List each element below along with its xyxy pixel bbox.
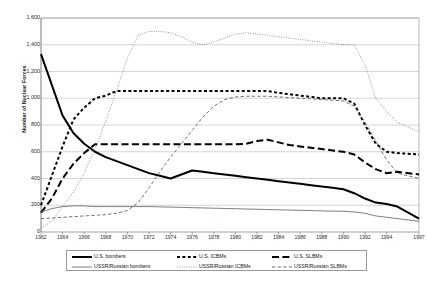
- legend-label-4: USSR/Russian ICBMs: [199, 264, 251, 269]
- series-line-3: [41, 206, 419, 221]
- legend-label-3: USSR/Russian bombers: [94, 264, 150, 269]
- series-line-1: [41, 91, 419, 205]
- legend-swatch-dotted-thick-icon: [177, 253, 197, 261]
- legend-label-5: USSR/Russian SLBMs: [294, 264, 347, 269]
- legend-item-3[interactable]: USSR/Russian bombers: [72, 262, 150, 272]
- legend-swatch-solid-thin-icon: [72, 263, 92, 271]
- legend-item-4[interactable]: USSR/Russian ICBMs: [177, 262, 251, 272]
- series-line-5: [41, 96, 419, 218]
- legend-item-2[interactable]: U.S. SLBMs: [272, 252, 322, 262]
- series-line-4: [41, 31, 419, 228]
- legend-item-1[interactable]: U.S. ICBMs: [177, 252, 226, 262]
- legend-swatch-dotted-thin-icon: [177, 263, 197, 271]
- series-line-0: [41, 54, 419, 219]
- chart-legend: U.S. bombers U.S. ICBMs U.S. SLBMs USSR/…: [66, 250, 367, 271]
- legend-label-2: U.S. SLBMs: [294, 254, 322, 259]
- legend-swatch-solid-thick-icon: [72, 253, 92, 261]
- legend-row-ussr: USSR/Russian bombers USSR/Russian ICBMs …: [67, 262, 366, 272]
- legend-swatch-dashed-long-thick-icon: [272, 253, 292, 261]
- legend-item-0[interactable]: U.S. bombers: [72, 252, 126, 262]
- legend-item-5[interactable]: USSR/Russian SLBMs: [272, 262, 347, 272]
- legend-label-1: U.S. ICBMs: [199, 254, 226, 259]
- plot-area: [0, 0, 427, 289]
- legend-swatch-dashed-thin-icon: [272, 263, 292, 271]
- legend-label-0: U.S. bombers: [94, 254, 126, 259]
- nuclear-forces-line-chart: Number of Nuclear Forces 02004006008001,…: [0, 0, 427, 289]
- legend-row-us: U.S. bombers U.S. ICBMs U.S. SLBMs: [67, 252, 366, 262]
